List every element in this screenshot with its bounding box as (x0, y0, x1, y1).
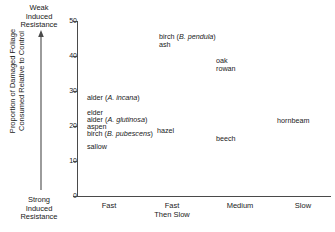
y-tick-30: 30 (45, 91, 77, 92)
label-text-post: ) (151, 129, 153, 138)
y-tick-40: 40 (45, 56, 77, 57)
data-label-hazel: hazel (157, 127, 174, 135)
x-tick-medium: Medium (227, 201, 254, 210)
y-tick-50: 50 (45, 21, 77, 22)
y-tick-10: 10 (45, 161, 77, 162)
label-text-post: ) (137, 93, 139, 102)
label-text-pre: birch ( (87, 129, 107, 138)
data-label-sallow: sallow (87, 143, 107, 151)
chart-figure: Proportion of Damaged Foliage Consumed R… (0, 0, 335, 232)
data-label-rowan: rowan (216, 65, 236, 73)
y-tick-0: 0 (45, 196, 77, 197)
strong-induced-resistance-label: Strong Induced Resistance (8, 196, 70, 222)
label-text-binomial: B. pubescens (107, 129, 151, 138)
x-axis-line (77, 196, 331, 197)
y-tick-20: 20 (45, 126, 77, 127)
label-text-pre: alder ( (87, 93, 107, 102)
x-tick-fast: Fast (102, 201, 117, 210)
x-tick-fast-then-slow: Fast Then Slow (154, 201, 189, 219)
up-arrow-icon (38, 30, 44, 190)
data-label-alder-incana: alder (A. incana) (87, 94, 140, 102)
x-tick-slow: Slow (295, 201, 311, 210)
label-text-binomial: A. glutinosa (107, 115, 145, 124)
data-label-birch-pubescens: birch (B. pubescens) (87, 130, 153, 138)
label-text-binomial: A. incana (107, 93, 137, 102)
label-text-post: ) (213, 32, 215, 41)
data-label-ash: ash (159, 41, 171, 49)
label-text-post: ) (145, 115, 147, 124)
data-label-hornbeam: hornbeam (277, 117, 309, 125)
y-axis-line (77, 21, 78, 197)
data-label-beech: beech (216, 135, 236, 143)
label-text-binomial: B. pendula (179, 32, 213, 41)
